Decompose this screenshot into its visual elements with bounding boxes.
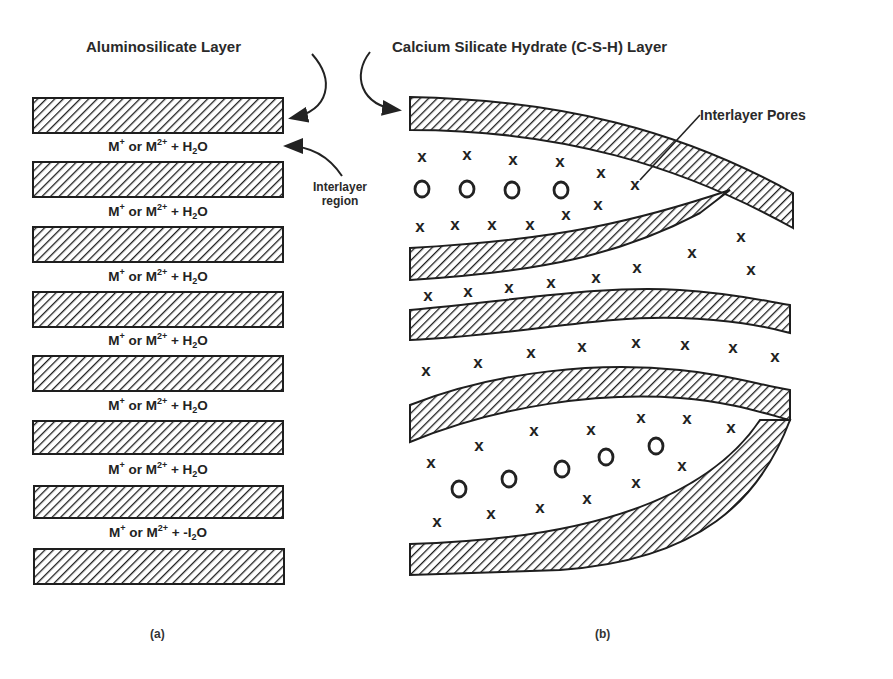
interlayer-ion-label: M+ or M2+ + H2O [33,331,283,350]
svg-text:x: x [582,489,592,508]
aluminosilicate-layer [33,227,283,262]
csh-layer-second [410,190,730,280]
svg-text:x: x [473,353,483,372]
svg-text:x: x [577,337,587,356]
aluminosilicate-layer [33,292,283,327]
svg-text:x: x [529,421,539,440]
svg-text:x: x [677,456,687,475]
svg-text:x: x [555,152,565,171]
svg-text:x: x [486,504,496,523]
svg-text:x: x [726,418,736,437]
svg-text:x: x [504,278,514,297]
svg-text:x: x [728,338,738,357]
svg-text:x: x [636,408,646,427]
svg-text:x: x [631,333,641,352]
csh-arrow-icon [361,52,398,110]
svg-text:x: x [630,175,640,194]
svg-text:x: x [421,361,431,380]
interlayer-ion-label: M+ or M2+ + H2O [33,137,283,156]
aluminosilicate-layer [33,98,283,133]
aluminosilicate-layer [34,549,284,584]
svg-text:x: x [596,163,606,182]
panel-b-caption: (b) [595,627,610,641]
aluminosilicate-arrow-icon [292,54,326,118]
svg-text:x: x [682,409,692,428]
svg-text:x: x [426,453,436,472]
svg-text:x: x [535,498,545,517]
diagram-figure: xxxx xx xxxx xx xxxx xxxxx xxxx xxxx xxx… [0,0,893,679]
aluminosilicate-layer [34,486,283,518]
interlayer-ion-label: M+ or M2+ + H2O [33,267,283,286]
aluminosilicate-layer [33,356,283,391]
interlayer-region-label-line2: region [300,194,380,208]
svg-text:x: x [736,227,746,246]
svg-text:x: x [586,420,596,439]
interlayer-region-label-line1: Interlayer [300,180,380,194]
svg-text:x: x [508,150,518,169]
svg-text:x: x [631,473,641,492]
svg-text:x: x [593,195,603,214]
svg-text:x: x [432,512,442,531]
interlayer-ion-label: M+ or M2+ + -I2O [33,523,283,542]
aluminosilicate-layer [33,421,283,454]
svg-text:x: x [487,215,497,234]
csh-layer-title: Calcium Silicate Hydrate (C-S-H) Layer [392,38,667,55]
svg-text:x: x [450,215,460,234]
svg-text:x: x [423,286,433,305]
svg-text:x: x [526,343,536,362]
svg-text:x: x [415,217,425,236]
csh-layer-bottom [410,420,790,575]
aluminosilicate-layer-title: Aluminosilicate Layer [86,38,241,55]
svg-text:x: x [770,347,780,366]
interlayer-ion-label: M+ or M2+ + H2O [33,202,283,221]
svg-text:x: x [680,335,690,354]
svg-text:x: x [632,258,642,277]
svg-text:x: x [417,147,427,166]
svg-text:x: x [746,260,756,279]
interlayer-region-arrow-icon [287,146,342,176]
svg-text:x: x [546,273,556,292]
interlayer-region-label: Interlayer region [300,180,380,208]
svg-text:x: x [525,215,535,234]
svg-text:x: x [687,243,697,262]
svg-text:x: x [462,145,472,164]
interlayer-ion-label: M+ or M2+ + H2O [33,396,283,415]
aluminosilicate-layer [33,162,283,197]
panel-a-caption: (a) [150,627,165,641]
svg-text:x: x [561,205,571,224]
svg-text:x: x [591,268,601,287]
svg-text:x: x [474,436,484,455]
interlayer-ion-label: M+ or M2+ + H2O [33,460,283,479]
svg-text:x: x [463,282,473,301]
interlayer-pores-label: Interlayer Pores [700,107,806,123]
